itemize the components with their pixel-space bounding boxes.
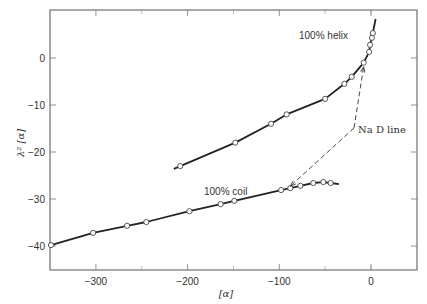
data-point <box>288 186 293 191</box>
data-point <box>361 60 366 65</box>
data-point <box>144 219 149 224</box>
y-tick-label: −20 <box>28 147 45 158</box>
x-axis-label: [α] <box>219 288 234 299</box>
data-point <box>342 81 347 86</box>
data-point <box>268 121 273 126</box>
x-tick-label: −300 <box>85 276 108 287</box>
data-point <box>187 209 192 214</box>
x-tick-label: −200 <box>176 276 199 287</box>
data-point <box>48 242 53 247</box>
data-point <box>349 74 354 79</box>
data-point <box>323 96 328 101</box>
data-point <box>124 223 129 228</box>
data-point <box>233 140 238 145</box>
data-point <box>321 179 326 184</box>
data-point <box>328 180 333 185</box>
data-point <box>232 198 237 203</box>
x-tick-label: −100 <box>268 276 291 287</box>
y-tick-label: −10 <box>28 100 45 111</box>
annotations: 100% helix 100% coil Na D line [α] λ² [α… <box>15 30 406 299</box>
data-point <box>178 164 183 169</box>
data-markers <box>48 30 375 247</box>
data-point <box>218 202 223 207</box>
data-point <box>284 112 289 117</box>
data-point <box>367 49 372 54</box>
rotatory-dispersion-chart: −300−200−10000−10−20−30−40 100% helix 10… <box>0 0 427 304</box>
curve--helix <box>174 19 376 169</box>
y-axis-label: λ² [α] <box>15 129 26 158</box>
x-tick-label: 0 <box>368 276 374 287</box>
na-d-line-arrow <box>290 128 354 186</box>
helix-label: 100% helix <box>299 30 348 41</box>
y-tick-label: −30 <box>28 194 45 205</box>
na-d-line-arrow <box>354 67 364 128</box>
coil-label: 100% coil <box>204 186 247 197</box>
data-point <box>91 230 96 235</box>
data-curves <box>50 19 376 245</box>
y-tick-label: −40 <box>28 241 45 252</box>
data-point <box>370 30 375 35</box>
na-d-line-label: Na D line <box>358 124 406 135</box>
data-point <box>311 180 316 185</box>
data-point <box>298 183 303 188</box>
axis-tick-labels: −300−200−10000−10−20−30−40 <box>28 53 374 288</box>
y-tick-label: 0 <box>39 53 45 64</box>
data-point <box>279 187 284 192</box>
data-point <box>367 42 372 47</box>
